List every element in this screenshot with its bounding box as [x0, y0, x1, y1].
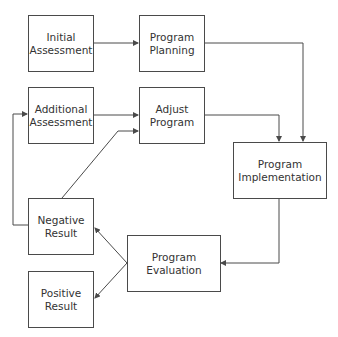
node-label: Additional	[35, 103, 88, 116]
node-label: Planning	[149, 44, 194, 57]
node-label: Program	[258, 158, 302, 171]
node-initial-assessment: Initial Assessment	[28, 15, 94, 72]
arrow-evaluation-to-negative	[95, 228, 127, 263]
node-program-implementation: Program Implementation	[233, 142, 327, 199]
arrow-evaluation-to-positive	[95, 263, 127, 298]
node-additional-assessment: Additional Assessment	[28, 87, 94, 144]
node-label: Evaluation	[146, 264, 201, 277]
node-label: Result	[45, 300, 77, 313]
node-label: Program	[150, 116, 194, 129]
node-program-planning: Program Planning	[139, 15, 205, 72]
node-label: Assessment	[30, 116, 93, 129]
node-label: Adjust	[156, 103, 189, 116]
arrow-implementation-to-evaluation	[221, 198, 279, 263]
node-label: Assessment	[30, 44, 93, 57]
node-adjust-program: Adjust Program	[139, 87, 205, 144]
arrow-negative-to-additional	[13, 114, 28, 225]
node-label: Program	[152, 251, 196, 264]
node-positive-result: Positive Result	[28, 271, 94, 328]
node-negative-result: Negative Result	[28, 198, 94, 255]
node-label: Result	[45, 227, 77, 240]
node-label: Program	[150, 31, 194, 44]
arrow-adjust-to-implementation	[204, 115, 279, 141]
node-label: Negative	[37, 214, 84, 227]
arrow-planning-to-implementation	[204, 43, 303, 141]
node-program-evaluation: Program Evaluation	[127, 235, 221, 292]
node-label: Initial	[46, 31, 75, 44]
node-label: Implementation	[238, 171, 321, 184]
node-label: Positive	[41, 287, 81, 300]
